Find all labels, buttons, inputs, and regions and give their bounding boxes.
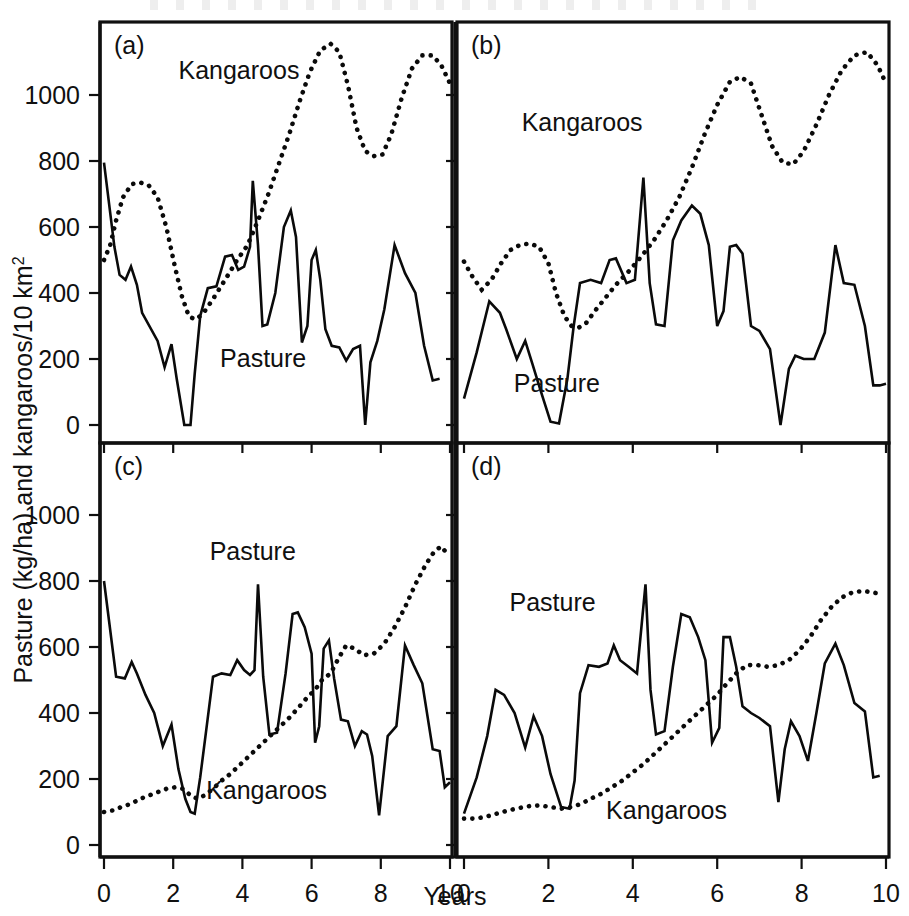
panel-label-b: (b) xyxy=(471,31,502,59)
x-tick-label-1-8: 8 xyxy=(795,879,809,907)
y-tick-label-0: 0 xyxy=(66,411,80,439)
panel-label-d: (d) xyxy=(471,452,502,480)
x-tick-label-0-8: 8 xyxy=(374,879,388,907)
curve-label-b-kangaroos: Kangaroos xyxy=(522,108,643,136)
y-tick-label-1000: 1000 xyxy=(24,81,80,109)
x-tick-label-0-4: 4 xyxy=(235,879,249,907)
y-tick-label-200: 200 xyxy=(38,765,80,793)
series-c-kangaroos xyxy=(104,546,447,812)
series-b-kangaroos xyxy=(464,52,886,328)
x-tick-label-1-2: 2 xyxy=(541,879,555,907)
y-tick-label-600: 600 xyxy=(38,213,80,241)
y-tick-label-800: 800 xyxy=(38,147,80,175)
curve-label-a-pasture: Pasture xyxy=(220,344,306,372)
y-tick-label-800: 800 xyxy=(38,567,80,595)
figure-root: (a)02004006008001000KangaroosPasture(b)K… xyxy=(0,0,909,916)
panel-frame-a xyxy=(100,22,452,443)
y-axis-title: Pasture (kg/ha) and kangaroos/10 km2 xyxy=(9,256,37,683)
x-tick-label-0-2: 2 xyxy=(166,879,180,907)
y-tick-label-600: 600 xyxy=(38,633,80,661)
x-tick-label-0-6: 6 xyxy=(305,879,319,907)
x-tick-label-1-4: 4 xyxy=(626,879,640,907)
y-tick-label-0: 0 xyxy=(66,831,80,859)
curve-label-c-kangaroos: Kangaroos xyxy=(206,776,327,804)
series-d-kangaroos xyxy=(464,591,882,819)
y-tick-label-400: 400 xyxy=(38,699,80,727)
series-d-pasture xyxy=(464,584,880,813)
x-tick-label-1-10: 10 xyxy=(872,879,900,907)
panel-label-a: (a) xyxy=(114,31,145,59)
curve-label-d-pasture: Pasture xyxy=(510,588,596,616)
four-panel-chart: (a)02004006008001000KangaroosPasture(b)K… xyxy=(0,0,909,916)
x-tick-label-1-6: 6 xyxy=(710,879,724,907)
curve-label-d-kangaroos: Kangaroos xyxy=(606,796,727,824)
series-a-pasture xyxy=(104,163,440,425)
curve-label-c-pasture: Pasture xyxy=(210,537,296,565)
panel-label-c: (c) xyxy=(114,452,143,480)
y-tick-label-200: 200 xyxy=(38,345,80,373)
y-tick-label-400: 400 xyxy=(38,279,80,307)
curve-label-a-kangaroos: Kangaroos xyxy=(178,56,299,84)
x-tick-label-0-0: 0 xyxy=(97,879,111,907)
page-bleed-artifact xyxy=(150,0,770,10)
curve-label-b-pasture: Pasture xyxy=(514,369,600,397)
x-axis-title: Years xyxy=(423,882,486,910)
